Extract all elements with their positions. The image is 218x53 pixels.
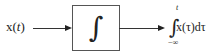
input-signal-label: x(t) [6,19,25,35]
output-arrowhead-icon [158,25,165,31]
input-function-name: x( [6,19,17,34]
input-arrow-line [33,28,66,29]
output-upper-limit: t [176,3,178,13]
output-integrand: x(τ)dτ [176,20,206,34]
input-arrowhead-icon [65,25,72,31]
integral-symbol: ∫ [73,10,119,46]
output-arrow-line [119,28,159,29]
input-close-paren: ) [20,19,24,34]
integrator-block: ∫ [72,5,120,51]
output-lower-limit: −∞ [168,38,178,48]
